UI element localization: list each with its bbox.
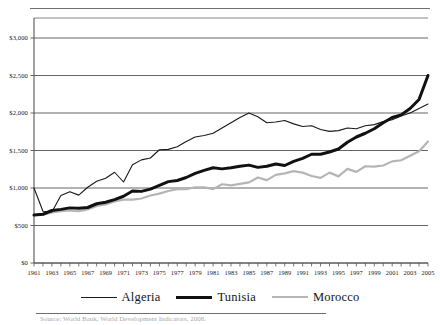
legend-item-algeria[interactable]: Algeria [81,290,161,305]
chart-legend: Algeria Tunisia Morocco [0,286,440,308]
x-axis-tick-label: 2003 [404,269,417,276]
x-axis-tick-label: 1963 [45,269,58,276]
source-divider-rule [36,313,326,314]
x-axis-tick-label: 1993 [314,269,327,276]
chart-plot-area: $0$500$1,000$1,500$2,000$2,500$3,000 196… [0,0,440,280]
y-axis-tick-label: $2,500 [0,72,28,79]
legend-item-tunisia[interactable]: Tunisia [176,290,255,305]
x-axis-tick-label: 2001 [386,269,399,276]
legend-item-morocco[interactable]: Morocco [272,290,360,305]
y-axis-tick-label: $0 [0,259,28,266]
y-axis-tick-label: $500 [0,222,28,229]
x-axis-tick-label: 1961 [28,269,41,276]
x-axis-tick-label: 1977 [171,269,184,276]
figure-chart-gdp-per-capita: $0$500$1,000$1,500$2,000$2,500$3,000 196… [0,0,440,325]
y-axis-tick-label: $1,000 [0,184,28,191]
x-axis-tick-label: 1999 [368,269,381,276]
legend-line-tunisia-icon [176,296,212,299]
x-axis-tick-label: 1985 [242,269,255,276]
x-axis-tick-label: 1979 [189,269,202,276]
legend-label-algeria: Algeria [122,290,161,305]
legend-label-morocco: Morocco [313,290,360,305]
x-axis-tick-label: 1991 [296,269,309,276]
x-axis-tick-label: 1983 [225,269,238,276]
x-axis-tick-label: 1981 [207,269,220,276]
x-axis-tick-label: 1965 [63,269,76,276]
x-axis-tick-label: 1975 [153,269,166,276]
x-axis-tick-label: 2005 [422,269,435,276]
x-axis-tick-label: 1969 [99,269,112,276]
legend-label-tunisia: Tunisia [217,290,255,305]
x-axis-tick-label: 1971 [117,269,130,276]
x-axis-tick-label: 1967 [81,269,94,276]
x-axis-tick-label: 1997 [350,269,363,276]
y-axis-tick-label: $1,500 [0,147,28,154]
x-axis-tick-label: 1987 [260,269,273,276]
series-line-algeria [34,104,428,212]
line-chart-svg [0,0,440,280]
legend-line-algeria-icon [81,297,117,298]
x-axis-tick-label: 1973 [135,269,148,276]
x-axis-tick-label: 1995 [332,269,345,276]
y-axis-tick-label: $3,000 [0,34,28,41]
y-axis-tick-label: $2,000 [0,109,28,116]
legend-line-morocco-icon [272,296,308,298]
x-axis-tick-label: 1989 [278,269,291,276]
source-note: Source: World Bank, World Development In… [40,315,370,323]
series-line-tunisia [34,76,428,216]
